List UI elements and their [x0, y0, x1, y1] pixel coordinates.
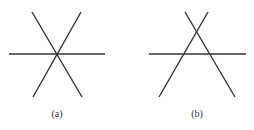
panel-a-lines: [9, 12, 105, 97]
panel-b-lines: [149, 12, 246, 97]
panel-b-label: (b): [191, 108, 203, 119]
panel-a-label: (a): [51, 108, 62, 119]
diagram-canvas: [0, 0, 254, 130]
